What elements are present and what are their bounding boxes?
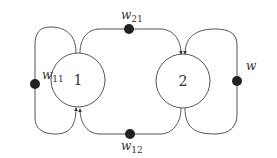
weight-dot-w11	[30, 79, 40, 89]
node-2-label: 2	[179, 73, 188, 89]
neural-network-diagram: 1 2 w11 w21 w12 w	[0, 0, 277, 158]
weight-dot-w22	[232, 76, 242, 86]
weight-dot-w21	[124, 24, 134, 34]
edge-label-w21: w21	[121, 8, 143, 24]
weight-dot-w12	[125, 129, 135, 139]
edge-label-w12: w12	[121, 139, 143, 155]
edge-w22	[185, 29, 237, 134]
edge-label-w22: w	[246, 59, 257, 73]
node-1-label: 1	[74, 72, 83, 88]
